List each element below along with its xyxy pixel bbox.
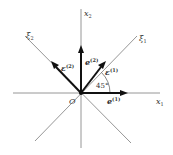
origin-point	[79, 91, 83, 95]
e2-label: e(2)	[85, 57, 98, 67]
xi1-axis	[35, 36, 137, 141]
origin-label: O	[69, 97, 76, 106]
x2-label: x2	[84, 9, 92, 19]
e1-label: e(1)	[107, 96, 120, 106]
x1-label: x1	[156, 97, 164, 107]
angle-label: 45°	[96, 82, 108, 90]
xi2-label: ξ2	[26, 31, 34, 41]
eps1-label: ε(1)	[105, 67, 118, 77]
arrowhead-e1	[120, 90, 128, 96]
coordinate-rotation-diagram: O x1 x2 ξ1 ξ2 e(1) e(2) ε(1) ε(2) 45°	[0, 0, 173, 155]
arrowhead-e2	[78, 45, 84, 53]
xi1-label: ξ1	[139, 34, 147, 44]
eps2-label: ε(2)	[61, 63, 74, 73]
vector-eps2	[56, 67, 81, 93]
